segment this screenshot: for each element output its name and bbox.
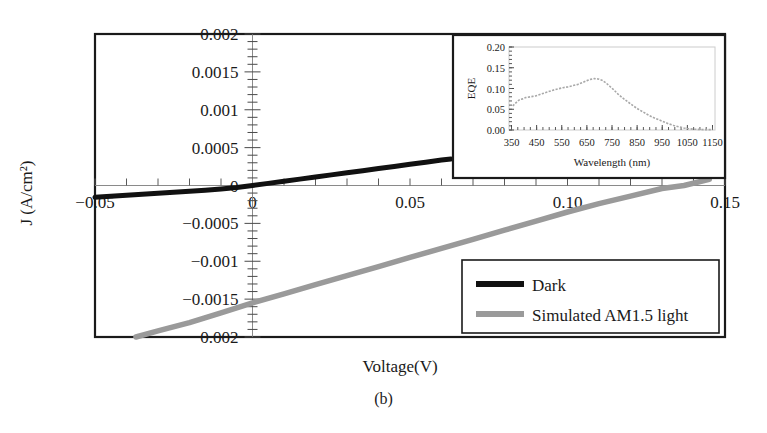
legend-label-simulated-am15-light: Simulated AM1.5 light	[532, 306, 689, 325]
inset-y-axis-title: EQE	[465, 78, 477, 100]
y-axis-tick-label: 0.0015	[192, 63, 239, 82]
inset-x-axis-tick-label: 350	[504, 137, 520, 148]
inset-y-axis-tick-label: 0.15	[487, 63, 505, 74]
inset-y-axis-tick-label: 0.05	[487, 104, 505, 115]
y-axis-title: J (A/cm²)	[17, 160, 36, 225]
x-axis-tick-label: 0.15	[710, 193, 740, 212]
inset-y-axis-tick-label: 0.10	[487, 84, 505, 95]
inset-x-axis-tick-label: 850	[629, 137, 645, 148]
inset-x-axis-title: Wavelength (nm)	[574, 156, 651, 169]
inset-x-axis-tick-label: 750	[604, 137, 620, 148]
inset-x-axis-tick-label: 1150	[702, 137, 723, 148]
y-axis-tick-label: −0.0005	[182, 214, 238, 233]
y-axis-tick-label: 0.001	[200, 101, 238, 120]
inset-x-axis-tick-label: 950	[654, 137, 670, 148]
inset-x-axis-tick-label: 650	[579, 137, 595, 148]
figure-panel-b: −0.0500.050.100.15−0.002−0.0015−0.001−0.…	[0, 0, 767, 433]
inset-y-axis-tick-label: 0.20	[487, 42, 505, 53]
series-line-dark	[95, 159, 451, 197]
figure-caption-text: (b)	[0, 390, 767, 408]
y-axis-tick-label: −0.0015	[182, 290, 238, 309]
inset-x-axis-tick-label: 450	[529, 137, 545, 148]
y-axis-tick-label: 0.002	[200, 25, 238, 44]
y-axis-tick-label: 0.0005	[192, 139, 239, 158]
inset-y-axis-tick-label: 0.00	[487, 125, 505, 136]
inset-x-axis-tick-label: 550	[554, 137, 570, 148]
x-axis-tick-label: 0.05	[395, 193, 425, 212]
y-axis-tick-label: −0.001	[191, 252, 239, 271]
y-axis-tick-label: −0.002	[191, 328, 239, 347]
jv-characteristic-chart: −0.0500.050.100.15−0.002−0.0015−0.001−0.…	[0, 0, 767, 433]
x-axis-title: Voltage(V)	[362, 357, 437, 376]
inset-x-axis-tick-label: 1050	[677, 137, 698, 148]
legend-label-dark: Dark	[532, 276, 566, 295]
